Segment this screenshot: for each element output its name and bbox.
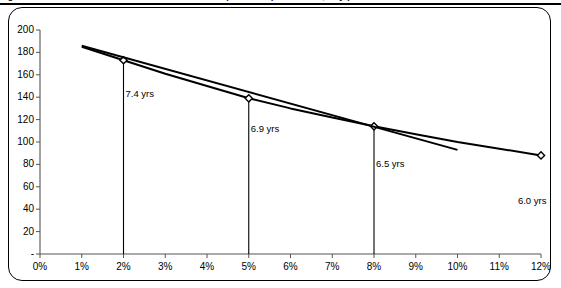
x-axis-tick-label: 5% xyxy=(234,261,264,272)
y-axis-tick-label: 140 xyxy=(4,91,34,102)
duration-annotation: 6.0 yrs xyxy=(518,195,547,206)
duration-annotation: 7.4 yrs xyxy=(126,88,155,99)
x-axis-tick-label: 11% xyxy=(484,261,514,272)
price-curve xyxy=(82,47,541,156)
duration-annotation: 6.9 yrs xyxy=(251,123,280,134)
y-axis-tick-label: 180 xyxy=(4,46,34,57)
y-axis-tick-label: 40 xyxy=(4,203,34,214)
y-axis-tick-label: 160 xyxy=(4,69,34,80)
duration-annotation: 6.5 yrs xyxy=(376,158,405,169)
x-axis-tick-label: 9% xyxy=(401,261,431,272)
data-point-marker xyxy=(537,152,544,159)
data-point-marker xyxy=(245,95,252,102)
x-axis-tick-label: 0% xyxy=(25,261,55,272)
y-axis-tick-label: 60 xyxy=(4,181,34,192)
price-yield-plot xyxy=(0,0,561,288)
y-axis-tick-label: 200 xyxy=(4,24,34,35)
y-axis-tick-label: 80 xyxy=(4,158,34,169)
x-axis-tick-label: 2% xyxy=(109,261,139,272)
x-axis-tick-label: 1% xyxy=(67,261,97,272)
x-axis-tick-label: 6% xyxy=(276,261,306,272)
y-axis-tick-label: 20 xyxy=(4,226,34,237)
x-axis-tick-label: 12% xyxy=(526,261,556,272)
y-axis-tick-label: - xyxy=(4,248,34,259)
x-axis-tick-label: 8% xyxy=(359,261,389,272)
x-axis-tick-label: 3% xyxy=(150,261,180,272)
x-axis-tick-label: 7% xyxy=(317,261,347,272)
x-axis-tick-label: 4% xyxy=(192,261,222,272)
x-axis-tick-label: 10% xyxy=(443,261,473,272)
y-axis-tick-label: 100 xyxy=(4,136,34,147)
y-axis-tick-label: 120 xyxy=(4,114,34,125)
chart-panel: Figure: Price / Yield Curve for a Par Bo… xyxy=(0,0,561,288)
